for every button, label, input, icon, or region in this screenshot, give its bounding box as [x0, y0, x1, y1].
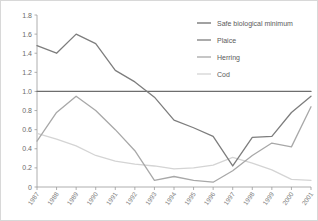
- x-tick-label: 1997: [222, 190, 236, 206]
- y-tick-label: 1.0: [22, 88, 32, 95]
- x-tick-label: 1998: [242, 190, 256, 206]
- x-tick-label: 1994: [163, 190, 177, 206]
- x-tick-label: 1996: [202, 190, 216, 206]
- legend-label: Plaice: [217, 37, 236, 44]
- y-tick-label: 1.8: [22, 12, 32, 19]
- x-tick-label: 1995: [183, 190, 197, 206]
- x-tick-label: 1988: [46, 190, 60, 206]
- series-line: [37, 133, 311, 180]
- y-axis: 00.20.40.60.81.01.21.41.61.8: [22, 12, 37, 191]
- x-tick-label: 1990: [85, 190, 99, 206]
- x-tick-label: 1989: [65, 190, 79, 206]
- y-tick-label: 1.2: [22, 69, 32, 76]
- y-tick-label: 0: [28, 184, 32, 191]
- y-tick-label: 0.4: [22, 145, 32, 152]
- chart-legend: Safe biological minimumPlaiceHerringCod: [197, 20, 293, 78]
- legend-label: Safe biological minimum: [217, 20, 293, 28]
- x-tick-label: 1992: [124, 190, 138, 206]
- series-lines: [37, 34, 311, 182]
- legend-label: Cod: [217, 71, 230, 78]
- legend-label: Herring: [217, 54, 240, 62]
- x-tick-label: 1993: [144, 190, 158, 206]
- line-chart: 00.20.40.60.81.01.21.41.61.8 19871988198…: [1, 1, 318, 221]
- x-tick-label: 1999: [261, 190, 275, 206]
- y-tick-label: 0.2: [22, 164, 32, 171]
- y-tick-label: 1.6: [22, 31, 32, 38]
- y-tick-label: 1.4: [22, 50, 32, 57]
- x-tick-label: 2001: [300, 190, 314, 206]
- y-tick-label: 0.8: [22, 107, 32, 114]
- y-tick-label: 0.6: [22, 126, 32, 133]
- chart-figure: 00.20.40.60.81.01.21.41.61.8 19871988198…: [0, 0, 318, 221]
- x-tick-label: 1987: [26, 190, 40, 206]
- x-tick-label: 1991: [105, 190, 119, 206]
- x-axis: 1987198819891990199119921993199419951996…: [26, 187, 314, 206]
- x-tick-label: 2000: [281, 190, 295, 206]
